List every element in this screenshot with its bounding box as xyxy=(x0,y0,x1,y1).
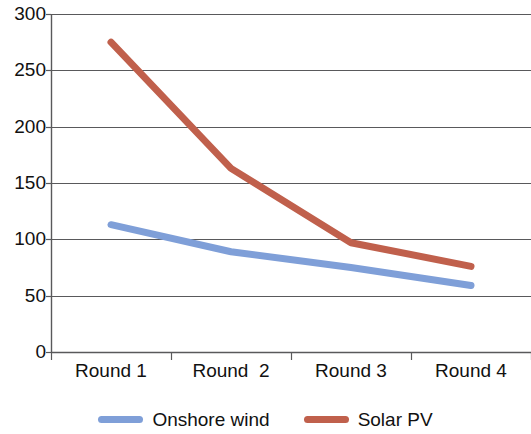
legend-color-swatch xyxy=(304,416,349,423)
x-axis-tick-label: Round 4 xyxy=(411,360,531,390)
x-axis-tick-labels: Round 1Round 2Round 3Round 4 xyxy=(51,360,531,390)
plot-area: 300250200150100500 xyxy=(0,0,531,360)
x-axis-tick-label: Round 3 xyxy=(291,360,411,390)
series-lines xyxy=(111,42,471,285)
x-axis-tick-label: Round 2 xyxy=(171,360,291,390)
legend-label: Solar PV xyxy=(358,410,433,429)
gridlines xyxy=(51,15,531,353)
plot-canvas xyxy=(0,0,531,360)
line-chart: 300250200150100500 Round 1Round 2Round 3… xyxy=(0,0,531,434)
legend-label: Onshore wind xyxy=(152,410,269,429)
legend-entry: Onshore wind xyxy=(98,410,269,429)
legend-color-swatch xyxy=(98,416,143,423)
x-axis-tick-label: Round 1 xyxy=(51,360,171,390)
legend-entry: Solar PV xyxy=(304,410,433,429)
chart-legend: Onshore windSolar PV xyxy=(0,404,531,434)
series-line xyxy=(111,42,471,266)
x-axis-ticks xyxy=(52,352,531,360)
